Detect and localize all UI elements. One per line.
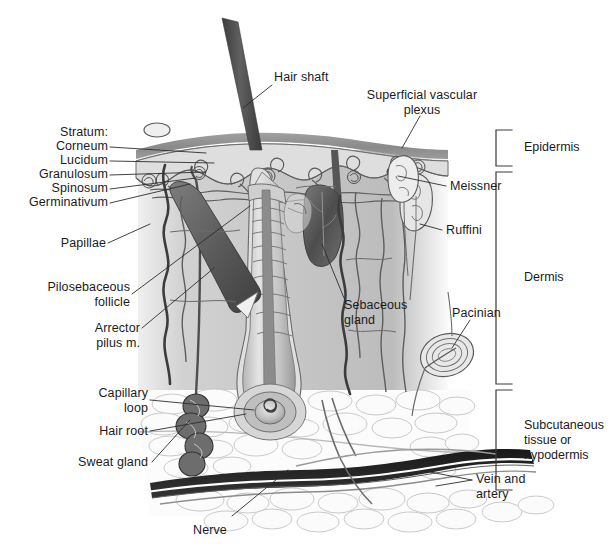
layer-label-epidermis: Epidermis [524, 140, 580, 155]
label-superficial-vascular-plexus: Superficial vascular plexus [352, 88, 492, 117]
label-pilosebaceous-follicle: Pilosebaceous follicle [0, 280, 130, 309]
label-stratum-corneum: Corneum [0, 139, 108, 154]
hair-shaft [222, 18, 262, 150]
hair-bulb-root [234, 384, 306, 440]
label-stratum-germinativum: Germinativum [0, 195, 108, 210]
label-hair-root: Hair root [0, 424, 148, 439]
label-papillae: Papillae [0, 236, 106, 251]
label-pacinian: Pacinian [452, 306, 501, 321]
layer-label-dermis: Dermis [524, 270, 564, 285]
label-hair-shaft: Hair shaft [274, 70, 329, 85]
label-stratum-lucidum: Lucidum [0, 153, 108, 168]
skin-anatomy-figure: Hair shaft Superficial vascular plexus S… [0, 0, 615, 555]
label-arrector-pilus-muscle: Arrector pilus m. [0, 321, 140, 350]
label-sweat-gland: Sweat gland [0, 455, 148, 470]
label-capillary-loop: Capillary loop [0, 386, 148, 415]
layer-label-subcutaneous: Subcutaneous tissue or hypodermis [524, 418, 604, 463]
label-ruffini: Ruffini [446, 223, 482, 238]
label-vein-and-artery: Vein and artery [476, 472, 525, 501]
label-stratum-heading: Stratum: [0, 125, 108, 140]
label-meissner: Meissner [450, 179, 502, 194]
label-stratum-granulosum: Granulosum [0, 167, 108, 182]
label-sebaceous-gland: Sebaceous gland [344, 298, 407, 327]
label-nerve: Nerve [193, 523, 227, 538]
label-stratum-spinosum: Spinosum [0, 181, 108, 196]
surface-pore-left [144, 123, 170, 137]
